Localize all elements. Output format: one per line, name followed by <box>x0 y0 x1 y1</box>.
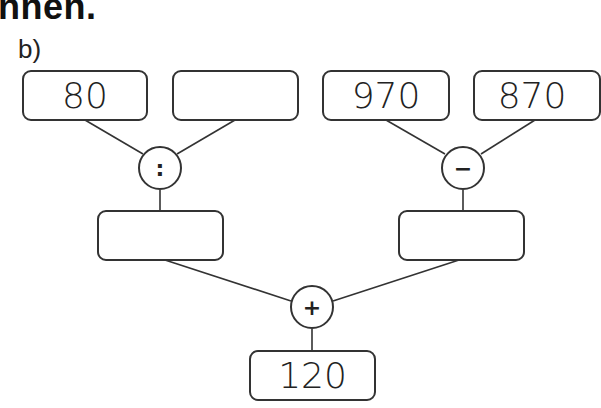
minus-operator-icon: − <box>441 146 485 190</box>
plus-operator-icon: + <box>290 285 334 329</box>
top-box-1-value: 80 <box>62 75 108 116</box>
result-box-value: 120 <box>278 355 347 396</box>
division-operator-icon: : <box>138 146 182 190</box>
plus-symbol: + <box>303 295 321 320</box>
top-box-3[interactable]: 970 <box>322 70 450 121</box>
result-box[interactable]: 120 <box>249 350 376 401</box>
division-symbol: : <box>156 156 165 181</box>
minus-symbol: − <box>454 156 472 181</box>
top-box-4[interactable]: 870 <box>473 70 601 121</box>
top-box-2-empty[interactable] <box>172 70 299 121</box>
middle-box-left-empty[interactable] <box>97 210 224 261</box>
middle-box-right-empty[interactable] <box>398 210 525 261</box>
top-box-3-value: 970 <box>352 75 421 116</box>
top-box-4-value: 870 <box>498 75 567 116</box>
top-box-1[interactable]: 80 <box>22 70 148 121</box>
